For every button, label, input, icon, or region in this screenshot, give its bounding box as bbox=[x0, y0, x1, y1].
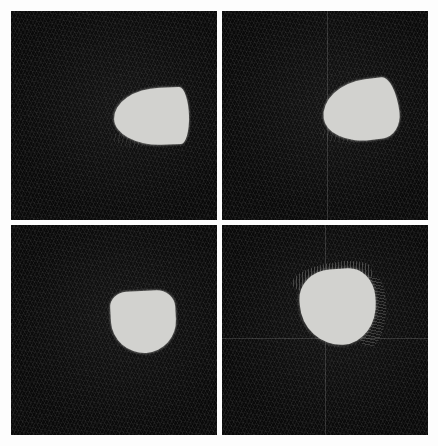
panel-top-left[interactable]: 1 bbox=[11, 11, 217, 220]
panel-top-right[interactable]: 2 bbox=[222, 11, 428, 220]
panel-grid-viewer: 1 2 3 4 bbox=[0, 0, 438, 446]
bright-region[interactable] bbox=[113, 87, 190, 147]
panel-index-label: 2 bbox=[226, 209, 230, 218]
bright-region[interactable] bbox=[320, 76, 403, 146]
bright-region[interactable] bbox=[109, 289, 177, 354]
panel-bottom-right[interactable]: 4 bbox=[222, 225, 428, 435]
panel-index-label: 1 bbox=[15, 209, 19, 218]
panel-index-label: 3 bbox=[15, 424, 19, 433]
panel-bottom-left[interactable]: 3 bbox=[11, 225, 217, 435]
panel-index-label: 4 bbox=[226, 424, 230, 433]
panel-grid: 1 2 3 4 bbox=[11, 11, 428, 435]
bright-region[interactable] bbox=[297, 266, 378, 347]
